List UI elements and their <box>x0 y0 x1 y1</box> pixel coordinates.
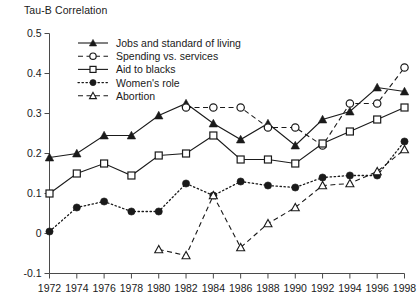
data-point-open-triangle <box>264 220 272 227</box>
data-point-open-circle <box>264 124 271 131</box>
data-point-open-square <box>73 170 80 177</box>
series-2 <box>46 104 408 197</box>
y-tick-label: 0.3 <box>27 107 42 119</box>
x-tick-label: 1984 <box>202 282 226 294</box>
series-0 <box>45 83 408 161</box>
y-tick-label: 0 <box>36 227 42 239</box>
series-line <box>186 68 404 146</box>
x-tick-label: 1988 <box>256 282 280 294</box>
data-point-open-square <box>346 128 353 135</box>
data-point-filled-circle <box>182 180 189 187</box>
data-point-filled-triangle <box>73 149 81 157</box>
x-tick-label: 1996 <box>366 282 390 294</box>
data-point-filled-circle <box>73 204 80 211</box>
data-point-open-circle <box>346 100 353 107</box>
x-tick-label: 1994 <box>338 282 362 294</box>
data-point-open-square <box>292 160 299 167</box>
y-tick-label: 0.1 <box>27 187 42 199</box>
data-point-filled-triangle <box>236 135 244 143</box>
x-tick-label: 1974 <box>65 282 89 294</box>
x-tick-label: 1980 <box>147 282 171 294</box>
y-tick-label: 0.2 <box>27 147 42 159</box>
data-point-filled-circle <box>264 182 271 189</box>
y-tick-label: 0.5 <box>27 27 42 39</box>
series-line <box>50 108 405 194</box>
legend: Jobs and standard of livingSpending vs. … <box>78 37 241 102</box>
data-point-filled-circle <box>292 184 299 191</box>
y-axis-title: Tau-B Correlation <box>24 4 107 16</box>
data-point-filled-circle <box>237 178 244 185</box>
data-point-filled-circle <box>46 228 53 235</box>
data-point-open-circle <box>182 104 189 111</box>
y-tick-label: -0.1 <box>23 267 41 279</box>
data-point-open-triangle <box>182 252 190 259</box>
data-point-open-circle <box>373 100 380 107</box>
legend-label: Aid to blacks <box>116 63 176 75</box>
data-point-filled-triangle <box>209 119 217 127</box>
data-point-filled-circle <box>101 198 108 205</box>
data-point-open-square <box>210 132 217 139</box>
data-point-open-circle <box>210 104 217 111</box>
data-point-filled-circle <box>90 80 96 86</box>
legend-label: Jobs and standard of living <box>116 37 241 49</box>
data-point-open-square <box>183 150 190 157</box>
data-point-filled-circle <box>155 208 162 215</box>
data-point-open-circle <box>292 124 299 131</box>
x-tick-label: 1990 <box>284 282 308 294</box>
data-point-filled-circle <box>401 138 408 145</box>
legend-label: Women's role <box>116 77 180 89</box>
data-point-open-square <box>90 66 96 72</box>
chart-canvas: 0.50.40.30.20.10-0.119721974197619781980… <box>0 0 417 303</box>
data-point-open-square <box>46 190 53 197</box>
y-tick-label: 0.4 <box>27 67 42 79</box>
data-point-open-triangle <box>155 246 163 253</box>
series-4 <box>155 146 409 259</box>
x-tick-label: 1976 <box>92 282 116 294</box>
data-point-open-square <box>101 160 108 167</box>
data-point-filled-circle <box>319 174 326 181</box>
x-tick-label: 1978 <box>120 282 144 294</box>
series-line <box>159 150 405 256</box>
x-tick-label: 1986 <box>229 282 253 294</box>
data-point-filled-circle <box>128 208 135 215</box>
data-point-open-square <box>128 172 135 179</box>
x-tick-label: 1998 <box>393 282 417 294</box>
tau-b-correlation-chart: Tau-B Correlation 0.50.40.30.20.10-0.119… <box>0 0 417 303</box>
data-point-open-square <box>237 156 244 163</box>
x-tick-label: 1982 <box>174 282 198 294</box>
data-point-open-triangle <box>401 146 409 153</box>
data-point-open-circle <box>237 104 244 111</box>
data-point-filled-triangle <box>155 111 163 119</box>
data-point-open-circle <box>90 53 96 59</box>
data-point-open-square <box>264 156 271 163</box>
data-point-open-square <box>319 140 326 147</box>
legend-label: Abortion <box>116 90 155 102</box>
legend-label: Spending vs. services <box>116 50 218 62</box>
data-point-open-square <box>401 104 408 111</box>
x-tick-label: 1992 <box>311 282 335 294</box>
data-point-open-triangle <box>346 180 354 187</box>
x-tick-label: 1972 <box>38 282 62 294</box>
data-point-filled-circle <box>346 172 353 179</box>
data-point-filled-triangle <box>373 83 381 91</box>
data-point-open-square <box>374 116 381 123</box>
data-point-open-square <box>155 152 162 159</box>
data-point-open-circle <box>401 64 408 71</box>
